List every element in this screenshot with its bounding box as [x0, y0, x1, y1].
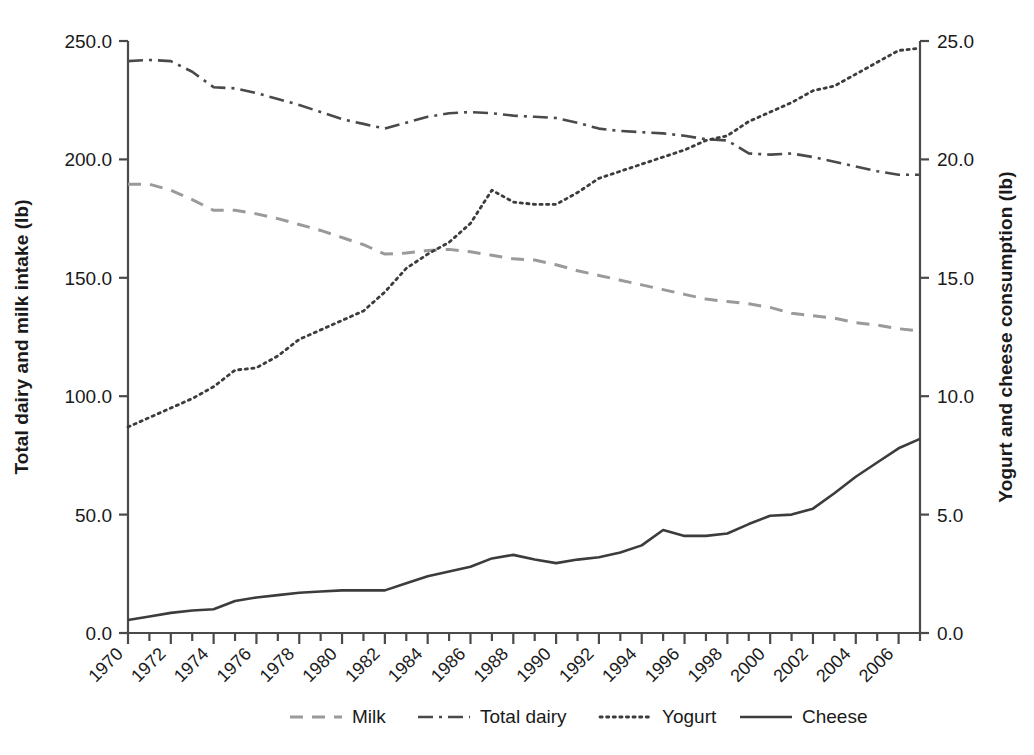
left-axis-tick-label: 250.0: [64, 31, 112, 52]
legend-label-yogurt: Yogurt: [662, 706, 717, 727]
right-axis-title: Yogurt and cheese consumption (lb): [995, 171, 1016, 502]
dairy-consumption-line-chart: 0.050.0100.0150.0200.0250.00.05.010.015.…: [0, 0, 1034, 755]
right-axis-tick-label: 5.0: [937, 505, 963, 526]
legend-label-milk: Milk: [352, 706, 386, 727]
legend-label-cheese: Cheese: [802, 706, 868, 727]
left-axis-tick-label: 50.0: [75, 505, 112, 526]
right-axis-tick-label: 25.0: [937, 31, 974, 52]
right-axis-tick-label: 10.0: [937, 386, 974, 407]
left-axis-title: Total dairy and milk intake (lb): [11, 199, 32, 474]
chart-figure: 0.050.0100.0150.0200.0250.00.05.010.015.…: [0, 0, 1034, 755]
right-axis-tick-label: 0.0: [937, 623, 963, 644]
left-axis-tick-label: 100.0: [64, 386, 112, 407]
chart-background: [0, 0, 1034, 755]
left-axis-tick-label: 200.0: [64, 149, 112, 170]
left-axis-tick-label: 0.0: [86, 623, 112, 644]
right-axis-tick-label: 20.0: [937, 149, 974, 170]
legend-label-total-dairy: Total dairy: [480, 706, 567, 727]
left-axis-tick-label: 150.0: [64, 268, 112, 289]
right-axis-tick-label: 15.0: [937, 268, 974, 289]
